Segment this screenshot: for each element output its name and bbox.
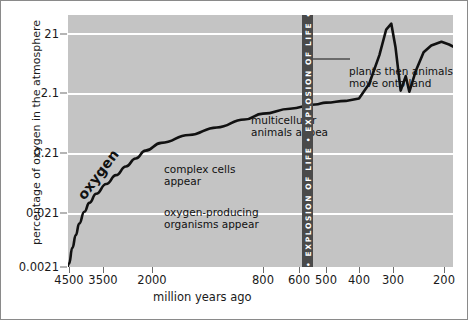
- x-tick-label-3500: 3500: [88, 273, 117, 287]
- x-tick-label-600: 600: [288, 273, 310, 287]
- y-tick-mark-0.21: [60, 153, 67, 154]
- oxygen-curve: [68, 15, 453, 267]
- explosion-of-life-bar: • EXPLOSION OF LIFE • EXPLOSION OF LIFE …: [302, 15, 313, 267]
- y-tick-mark-21: [60, 34, 67, 35]
- annotation-multicellular-animals: multicellularanimals appea: [251, 114, 328, 139]
- y-tick-mark-0.0021: [60, 267, 67, 268]
- x-axis-title: million years ago: [153, 290, 252, 304]
- y-tick-label-0.21: 0.21: [33, 146, 59, 160]
- annotation-complex-cells: complex cellsappear: [164, 163, 235, 188]
- x-tick-label-4500: 4500: [54, 273, 83, 287]
- x-tick-label-400: 400: [348, 273, 370, 287]
- y-axis-tick-labels: 21 2.1 0.21 0.021 0.0021: [1, 1, 59, 320]
- x-tick-label-500: 500: [315, 273, 337, 287]
- x-tick-label-200: 200: [433, 273, 455, 287]
- explosion-of-life-label: • EXPLOSION OF LIFE • EXPLOSION OF LIFE …: [303, 15, 312, 267]
- x-tick-label-2000: 2000: [137, 273, 166, 287]
- oxygen-history-chart: percentage of oxygen in the atmosphere 2…: [0, 0, 468, 320]
- y-tick-label-21: 21: [44, 27, 59, 41]
- annotation-plants-move-onto-land: plants then animalsmove onto land: [349, 65, 453, 90]
- x-tick-label-800: 800: [252, 273, 274, 287]
- y-tick-mark-0.021: [60, 213, 67, 214]
- y-tick-label-2.1: 2.1: [41, 86, 59, 100]
- x-tick-label-300: 300: [382, 273, 404, 287]
- annotation-oxygen-producing-organisms: oxygen-producingorganisms appear: [164, 206, 259, 231]
- y-tick-label-0.0021: 0.0021: [19, 260, 59, 274]
- y-tick-label-0.021: 0.021: [26, 206, 59, 220]
- plot-area: oxygen complex cellsappear oxygen-produc…: [68, 15, 453, 267]
- y-tick-mark-2.1: [60, 93, 67, 94]
